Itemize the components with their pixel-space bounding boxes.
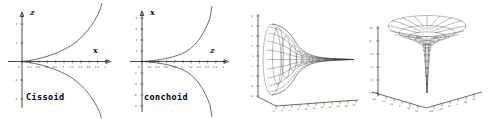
conchoid-xtick-8: 1.6 [205,66,209,69]
cissoid-xtick-1: 0.2 [28,66,32,69]
funnel-vertical-axis: 8.2 8 7.8 7.6 7.4 7.2 [370,26,380,96]
cissoid-xtick-5: 1 [63,66,65,69]
cissoid-ytick-0: -4 [15,98,18,101]
conchoid-xtick-10: 2 [222,66,224,69]
horn-ztick-7: 6 [251,25,253,28]
funnel-ztick-4: 8 [370,40,372,43]
cissoid-vertical-axis: 4 2 -2 -4 [15,12,24,108]
funnel-ytick-3: 0 [456,103,458,106]
horn-ztick-3: -2 [251,65,254,68]
funnel-xtick-0: -60 [372,98,376,101]
funnel-surface-mesh [388,16,466,94]
horn-xtick-6: 12 [321,106,325,109]
horn-ztick-1: -6 [251,85,254,88]
cissoid-ytick-4: 4 [16,23,18,26]
horn-xtick-7: 14 [329,106,333,109]
plot-panel-conchoid: 8 6 4 2 -2 -4 -6 -8 [122,0,240,118]
plot-panel-horn-3d: 8 6 4 2 0 -2 -4 -6 -8 [240,0,364,118]
horn-ztick-4: 0 [252,55,254,58]
funnel-xtick-4: 20 [407,107,411,110]
cissoid-xtick-6: 1.2 [70,66,74,69]
horn-ztick-6: 4 [251,35,253,38]
horn-vertical-axis: 8 6 4 2 0 -2 -4 -6 -8 [251,14,259,98]
cissoid-xtick-2: 0.4 [36,66,40,69]
cissoid-xtick-8: 1.6 [86,66,90,69]
conchoid-xtick-0: 0 [138,66,140,69]
conchoid-xtick-9: 1.8 [213,66,217,69]
conchoid-ytick-2: -4 [134,83,137,86]
plot-panel-funnel-3d: 8.2 8 7.8 7.6 7.4 7.2 -60 -40 -20 0 [364,0,488,118]
horn-xtick-0: 0 [273,110,275,113]
conchoid-lower-branch [142,62,212,118]
funnel-ytick-1: -40 [439,108,443,111]
conchoid-xtick-1: 0.2 [147,66,151,69]
funnel-ytick-0: -60 [429,110,433,113]
conchoid-vertical-axis-label: x [149,7,155,17]
funnel-ztick-5: 8.2 [370,27,374,30]
cissoid-ytick-3: 2 [16,42,18,45]
funnel-xtick-2: -20 [389,103,393,106]
funnel-xtick-3: 0 [399,105,401,108]
funnel-y-axis: -60 -40 -20 0 20 40 [426,92,482,113]
conchoid-ytick-8: 8 [136,17,138,20]
conchoid-ytick-7: 6 [136,28,138,31]
horn-ztick-2: -4 [251,75,254,78]
conchoid-xtick-3: 0.6 [164,66,168,69]
funnel-xtick-1: -40 [381,100,385,103]
horn-ztick-5: 2 [251,45,253,48]
conchoid-ytick-1: -6 [134,94,137,97]
horn-svg: 8 6 4 2 0 -2 -4 -6 -8 [240,0,364,118]
horn-xtick-9: 18 [345,105,349,108]
conchoid-svg: 8 6 4 2 -2 -4 -6 -8 [122,0,240,118]
horn-xtick-8: 16 [337,105,341,108]
conchoid-xtick-5: 1 [182,66,184,69]
funnel-ytick-4: 20 [464,101,468,104]
cissoid-vertical-axis-label: z [29,7,35,17]
conchoid-xtick-6: 1.2 [188,66,192,69]
funnel-x-axis: -60 -40 -20 0 20 40 [372,92,426,113]
horn-xtick-1: 2 [281,109,283,112]
funnel-ytick-2: -20 [447,105,451,108]
conchoid-ytick-5: 2 [136,50,138,53]
conchoid-ytick-6: 4 [136,39,138,42]
horn-ztick-0: -8 [251,95,254,98]
funnel-ytick-5: 40 [472,98,476,101]
horn-xtick-4: 8 [305,108,307,111]
horn-surface-mesh [263,24,354,95]
conchoid-ytick-3: -2 [134,72,137,75]
funnel-ztick-2: 7.6 [370,66,374,69]
cissoid-xtick-0: 0 [18,66,20,69]
horn-xtick-5: 10 [313,107,317,110]
cissoid-horizontal-axis-label: x [92,45,98,55]
funnel-svg: 8.2 8 7.8 7.6 7.4 7.2 -60 -40 -20 0 [364,0,488,118]
horn-xtick-3: 6 [297,108,299,111]
conchoid-xtick-7: 1.4 [197,66,201,69]
cissoid-xtick-9: 1.8 [95,66,99,69]
horn-xtick-2: 4 [289,109,291,112]
cissoid-ytick-1: -2 [15,79,18,82]
funnel-ztick-3: 7.8 [370,53,374,56]
cissoid-xtick-10: 2 [104,66,106,69]
horn-xtick-10: 20 [353,104,357,107]
cissoid-xtick-7: 1.4 [78,66,82,69]
horn-depth-axis: 0 2 4 6 8 10 12 14 16 18 20 [258,97,358,113]
conchoid-horizontal-axis-label: z [209,45,215,55]
funnel-ztick-1: 7.4 [370,79,374,82]
cissoid-caption: Cissoid [26,92,65,102]
figure-container: 4 2 -2 -4 0 0.2 [0,0,488,118]
horn-ztick-8: 8 [251,15,253,18]
conchoid-ytick-0: -8 [134,105,137,108]
conchoid-caption: conchoid [144,92,188,102]
conchoid-xtick-2: 0.4 [156,66,160,69]
funnel-xtick-5: 40 [415,110,419,113]
cissoid-svg: 4 2 -2 -4 0 0.2 [0,0,122,118]
cissoid-lower-branch [22,62,102,119]
plot-panel-cissoid: 4 2 -2 -4 0 0.2 [0,0,122,118]
